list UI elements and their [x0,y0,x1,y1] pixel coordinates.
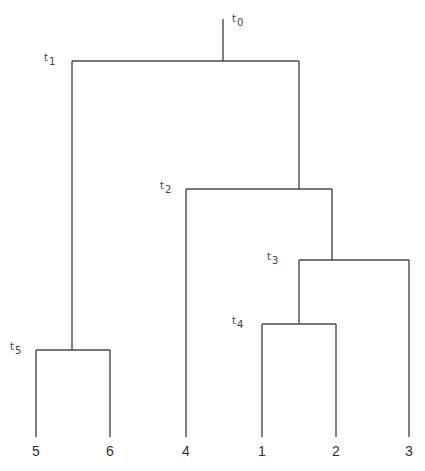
node-label-t0: t0 [232,14,243,24]
node-label-subscript: 1 [49,56,55,67]
node-label-base: t [232,13,236,24]
node-label-base: t [267,251,271,262]
leaf-label: 2 [332,444,340,458]
node-label-t2: t2 [160,181,171,191]
node-label-subscript: 2 [165,184,171,195]
node-label-t3: t3 [267,252,278,262]
leaf-label: 1 [258,444,266,458]
node-label-base: t [10,341,14,352]
leaf-label: 6 [106,444,114,458]
node-label-base: t [44,52,48,63]
dendrogram: t0t1t2t3t4t5 564123 [0,0,425,471]
node-label-subscript: 4 [237,319,243,330]
node-label-t5: t5 [10,342,21,352]
dendrogram-branches [0,0,425,471]
leaf-label: 5 [32,444,40,458]
leaf-label: 3 [405,444,413,458]
node-label-base: t [160,180,164,191]
node-label-t1: t1 [44,53,55,63]
node-label-t4: t4 [232,316,243,326]
node-label-subscript: 3 [272,255,278,266]
node-label-base: t [232,315,236,326]
node-label-subscript: 0 [237,17,243,28]
node-label-subscript: 5 [15,345,21,356]
leaf-label: 4 [182,444,190,458]
